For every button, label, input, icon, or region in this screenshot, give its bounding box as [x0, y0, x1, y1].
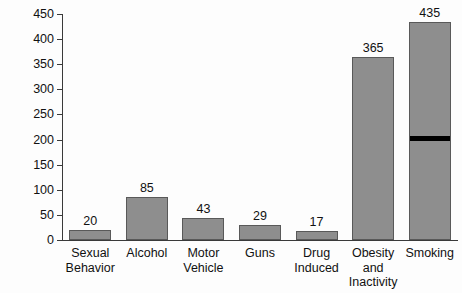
x-axis-line [62, 240, 458, 241]
y-tick-mark [57, 114, 62, 115]
bar[interactable]: 365 [352, 57, 394, 240]
bar-value-label: 435 [419, 6, 440, 20]
y-tick-mark [57, 240, 62, 241]
y-tick-mark [57, 64, 62, 65]
y-axis-line [62, 14, 63, 241]
y-tick-mark [57, 165, 62, 166]
y-tick-label: 200 [8, 133, 54, 147]
y-tick-label: 0 [8, 233, 54, 247]
bar-value-label: 17 [310, 215, 324, 229]
bar[interactable]: 29 [239, 225, 281, 240]
y-tick-label: 300 [8, 82, 54, 96]
x-axis-category-label: Sexual Behavior [62, 246, 119, 275]
bar-chart: No. of Deaths (thousands) 05010015020025… [0, 0, 462, 293]
y-tick-label: 50 [8, 208, 54, 222]
bar-marker-band [410, 136, 450, 141]
bar[interactable]: 17 [296, 231, 338, 240]
y-tick-label: 100 [8, 183, 54, 197]
plot-area: 050100150200250300350400450 208543291736… [62, 14, 458, 240]
x-axis-category-label: Guns [232, 246, 289, 261]
bar-value-label: 29 [253, 209, 267, 223]
x-axis-category-label: Alcohol [119, 246, 176, 261]
bar[interactable]: 435 [409, 22, 451, 240]
y-tick-mark [57, 89, 62, 90]
bar[interactable]: 43 [182, 218, 224, 240]
y-tick-mark [57, 39, 62, 40]
y-tick-mark [57, 140, 62, 141]
x-axis-category-label: Obesity and Inactivity [345, 246, 402, 290]
y-tick-label: 350 [8, 57, 54, 71]
y-tick-label: 150 [8, 158, 54, 172]
bar[interactable]: 20 [69, 230, 111, 240]
bar-value-label: 20 [83, 214, 97, 228]
x-axis-category-label: Drug Induced [288, 246, 345, 275]
y-tick-mark [57, 14, 62, 15]
x-axis-category-label: Smoking [401, 246, 458, 261]
y-tick-label: 250 [8, 107, 54, 121]
bar[interactable]: 85 [126, 197, 168, 240]
y-tick-label: 400 [8, 32, 54, 46]
bar-value-label: 365 [363, 41, 384, 55]
y-tick-mark [57, 215, 62, 216]
x-axis-category-label: Motor Vehicle [175, 246, 232, 275]
bar-value-label: 43 [196, 202, 210, 216]
bar-value-label: 85 [140, 181, 154, 195]
y-tick-label: 450 [8, 7, 54, 21]
y-tick-mark [57, 190, 62, 191]
